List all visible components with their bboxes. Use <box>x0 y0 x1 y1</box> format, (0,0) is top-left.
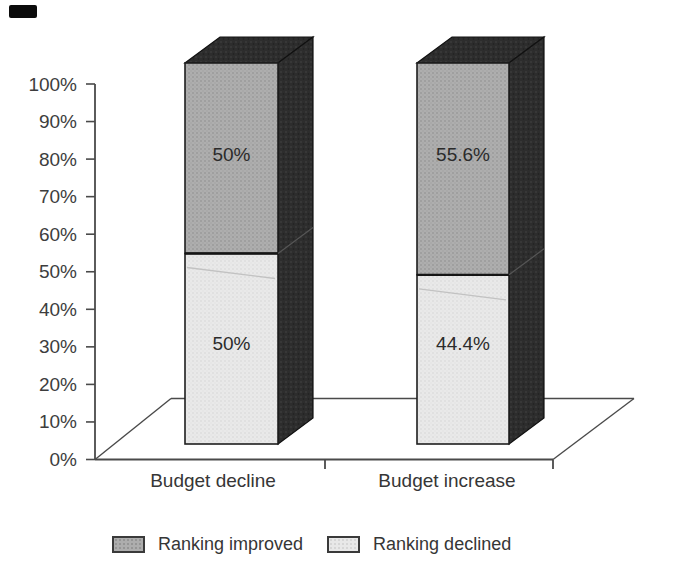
floor-left-edge <box>95 399 171 460</box>
y-tick-label: 50% <box>39 261 77 282</box>
bar-label-ranking-improved: 55.6% <box>436 144 490 165</box>
floor-right-edge <box>553 399 634 460</box>
bar-label-ranking-declined: 44.4% <box>436 333 490 354</box>
bars-layer: 50%50%55.6%44.4% <box>185 37 544 444</box>
y-tick-label: 20% <box>39 374 77 395</box>
y-tick-label: 40% <box>39 299 77 320</box>
legend-label-ranking-declined: Ranking declined <box>373 534 511 555</box>
legend-label-ranking-improved: Ranking improved <box>158 534 303 555</box>
y-tick-label: 90% <box>39 111 77 132</box>
chart-page: 50%50%55.6%44.4% 0%10%20%30%40%50%60%70%… <box>0 0 673 586</box>
bar-label-ranking-improved: 50% <box>212 144 250 165</box>
y-tick-label: 70% <box>39 186 77 207</box>
y-tick-label: 10% <box>39 411 77 432</box>
bar-budget-increase: 55.6%44.4% <box>417 37 544 444</box>
segment-ranking-declined <box>417 275 509 444</box>
y-tick-label: 0% <box>50 449 78 470</box>
segment-ranking-improved <box>417 63 509 275</box>
stacked-bar-chart-3d: 50%50%55.6%44.4% 0%10%20%30%40%50%60%70%… <box>0 0 673 586</box>
legend-swatch-ranking-improved <box>112 536 145 553</box>
category-label-budget-decline: Budget decline <box>150 470 276 491</box>
bar-budget-decline: 50%50% <box>185 37 313 444</box>
category-label-budget-increase: Budget increase <box>378 470 515 491</box>
y-axis: 0%10%20%30%40%50%60%70%80%90%100% <box>28 74 95 471</box>
bar-label-ranking-declined: 50% <box>212 333 250 354</box>
floor-plane <box>95 399 634 460</box>
legend-item-ranking-declined: Ranking declined <box>327 534 511 555</box>
y-tick-label: 100% <box>28 74 77 95</box>
bar-side-face <box>509 37 544 444</box>
legend-swatch-ranking-declined <box>327 536 360 553</box>
y-tick-label: 60% <box>39 224 77 245</box>
legend: Ranking improved Ranking declined <box>112 534 511 555</box>
legend-item-ranking-improved: Ranking improved <box>112 534 303 555</box>
y-tick-label: 80% <box>39 149 77 170</box>
x-axis <box>95 460 553 470</box>
y-tick-label: 30% <box>39 336 77 357</box>
